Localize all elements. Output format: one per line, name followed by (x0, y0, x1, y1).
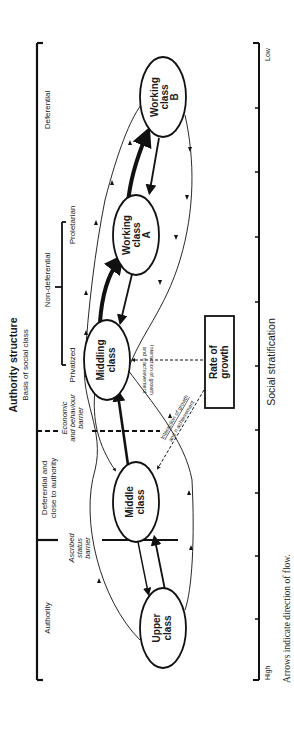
svg-text:Rate of: Rate of (208, 344, 219, 379)
axis-label-high: High (264, 665, 272, 680)
ascribed-barrier-label: Ascribed status barrier (67, 533, 92, 564)
svg-text:and n achievement: and n achievement (142, 347, 148, 394)
authority-structure-subtitle: Basis of social class (21, 329, 30, 401)
node-middling-class: Middling class (84, 320, 130, 400)
segment-label-proletarian: Proletarian (68, 206, 77, 245)
arrow-workingB-to-workingA (150, 138, 159, 190)
svg-text:class: class (135, 489, 146, 514)
axis-label-low: Low (264, 47, 271, 61)
economic-barrier-label: Economic and behaviour barrier (60, 394, 85, 442)
interaction-label-middling: Interaction of growth and n achievement (142, 345, 155, 395)
thick-arrow-workingA-to-workingB (128, 136, 146, 203)
rate-of-growth-box: Rate of growth (205, 316, 234, 408)
segment-label-authority: Authority (43, 602, 52, 634)
svg-text:growth: growth (219, 345, 230, 378)
thick-arrow-middling-to-workingA (100, 262, 118, 322)
arrow-workingA-to-middling (121, 270, 133, 320)
svg-text:class: class (106, 347, 117, 372)
node-working-class-a: Working class A (113, 195, 159, 275)
svg-text:Interaction of growth: Interaction of growth (149, 345, 155, 395)
arrow-upper-to-middle (155, 540, 165, 590)
node-middle-class: Middle class (113, 462, 159, 542)
stratification-axis (253, 43, 259, 680)
segment-label-deferential: Deferential (43, 90, 52, 129)
segment-label-privatized: Privatized (68, 347, 77, 382)
node-upper-class: Upper class (140, 588, 186, 668)
svg-text:Middle: Middle (124, 486, 135, 518)
authority-axis-bracket (37, 43, 43, 680)
svg-text:B: B (169, 93, 180, 100)
non-deferential-bracket (55, 222, 66, 365)
figure-caption: Arrows indicate direction of flow. (282, 554, 292, 683)
social-stratification-title: Social stratification (265, 318, 277, 406)
svg-text:A: A (141, 231, 152, 238)
node-working-class-b: Working class B (140, 57, 186, 137)
segment-label-deferential-close-2: close to authority (49, 458, 58, 518)
svg-text:Middling: Middling (95, 339, 106, 380)
social-class-diagram: Authority Deferential and close to autho… (0, 0, 294, 734)
segment-label-non-deferential: Non-deferential (43, 252, 52, 307)
segment-label-deferential-close-1: Deferential and (40, 461, 49, 515)
arrow-middle-to-upper (138, 542, 148, 592)
svg-text:class: class (162, 615, 173, 640)
svg-text:barrier: barrier (83, 537, 92, 559)
svg-text:Upper: Upper (151, 613, 162, 642)
authority-structure-title: Authority structure (7, 317, 19, 412)
svg-text:barrier: barrier (76, 407, 85, 429)
